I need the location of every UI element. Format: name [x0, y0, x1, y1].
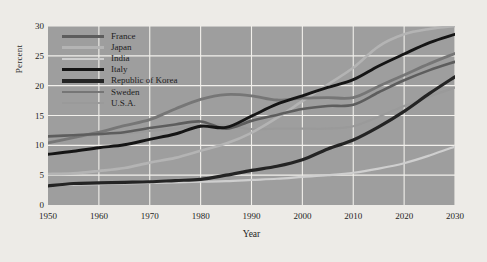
- x-tick-label: 2020: [384, 212, 424, 221]
- x-tick-label: 1960: [79, 212, 119, 221]
- legend-item-label: France: [111, 32, 136, 41]
- chart-page: 051015202530 195019601970198019902000201…: [0, 0, 487, 262]
- legend-color-swatch: [62, 91, 104, 94]
- legend-item[interactable]: Italy: [62, 64, 212, 75]
- legend-color-swatch: [62, 79, 104, 82]
- y-tick-label: 0: [16, 201, 44, 209]
- legend-item-label: India: [111, 54, 130, 63]
- x-tick-label: 2000: [282, 212, 322, 221]
- chart-legend: FranceJapanIndiaItalyRepublic of KoreaSw…: [62, 31, 212, 109]
- x-tick-label: 1970: [130, 212, 170, 221]
- y-tick-label: 15: [16, 112, 44, 120]
- y-tick-label: 10: [16, 141, 44, 149]
- legend-item-label: U.S.A.: [111, 99, 136, 108]
- x-tick-label: 1980: [181, 212, 221, 221]
- y-tick-label: 5: [16, 171, 44, 179]
- legend-item-label: Italy: [111, 65, 128, 74]
- y-axis-title: Percent: [14, 14, 24, 104]
- legend-item[interactable]: Republic of Korea: [62, 75, 212, 86]
- legend-item-label: Japan: [111, 43, 132, 52]
- legend-color-swatch: [62, 102, 104, 104]
- x-axis-title: Year: [48, 229, 455, 239]
- legend-color-swatch: [62, 35, 104, 38]
- legend-item[interactable]: U.S.A.: [62, 98, 212, 109]
- x-tick-label: 2010: [333, 212, 373, 221]
- legend-item-label: Sweden: [111, 88, 140, 97]
- legend-item[interactable]: India: [62, 53, 212, 64]
- x-tick-label: 2030: [435, 212, 475, 221]
- x-tick-label: 1950: [28, 212, 68, 221]
- legend-item[interactable]: Sweden: [62, 86, 212, 97]
- legend-color-swatch: [62, 46, 104, 49]
- legend-item[interactable]: Japan: [62, 42, 212, 53]
- legend-item-label: Republic of Korea: [111, 76, 177, 85]
- x-tick-label: 1990: [232, 212, 272, 221]
- legend-item[interactable]: France: [62, 31, 212, 42]
- legend-color-swatch: [62, 68, 104, 71]
- plot-area: 051015202530 195019601970198019902000201…: [48, 26, 455, 205]
- legend-color-swatch: [62, 58, 104, 60]
- line-chart-figure: 051015202530 195019601970198019902000201…: [0, 0, 487, 262]
